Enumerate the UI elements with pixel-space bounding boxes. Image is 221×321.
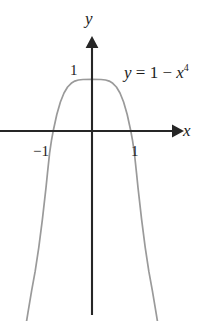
equation-lhs: y: [124, 63, 132, 82]
equation-minus: −: [158, 63, 176, 82]
curve-equation-annotation: y = 1 − x4: [124, 64, 189, 81]
math-graph-figure: y x 1 −1 1 y = 1 − x4: [0, 0, 221, 321]
equation-equals: =: [132, 63, 150, 82]
x-tick-label-negative-1: −1: [33, 144, 49, 159]
equation-constant: 1: [150, 63, 159, 82]
x-tick-label-1: 1: [131, 144, 139, 159]
plot-canvas: [0, 0, 221, 321]
equation-exponent: 4: [184, 62, 189, 73]
y-axis-label: y: [85, 10, 93, 27]
x-axis-label: x: [183, 122, 191, 139]
y-tick-label-1: 1: [70, 63, 78, 78]
equation-variable: x: [176, 63, 184, 82]
y-axis-arrowhead: [86, 36, 99, 48]
